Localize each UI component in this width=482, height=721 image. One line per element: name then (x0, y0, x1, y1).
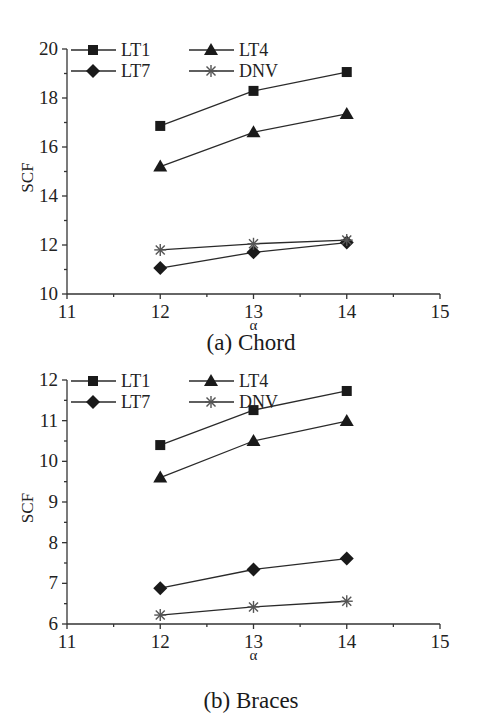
legend-item-lt4: LT4 (189, 40, 268, 60)
triangle-marker-icon (204, 374, 218, 386)
chart-caption-chord: (a) Chord (20, 330, 482, 356)
braces-scf-chart: 67891011121112131415αSCFLT1LT4LT7DNV (0, 360, 482, 690)
legend-item-lt7: LT7 (71, 61, 150, 81)
chord-scf-chart: 1012141618201112131415αSCFLT1LT4LT7DNV (0, 0, 482, 330)
legend-label: DNV (239, 61, 278, 81)
asterisk-marker-icon (341, 234, 353, 246)
square-marker-icon (249, 86, 259, 96)
y-tick-label: 16 (39, 136, 58, 157)
diamond-marker-icon (86, 64, 100, 78)
chart-panel-chord: 1012141618201112131415αSCFLT1LT4LT7DNV (… (0, 0, 482, 360)
chart-caption-braces: (b) Braces (20, 688, 482, 714)
diamond-marker-icon (340, 552, 354, 566)
legend-item-dnv: DNV (189, 392, 278, 412)
y-tick-label: 10 (39, 283, 58, 304)
y-tick-label: 11 (40, 410, 58, 431)
legend-label: DNV (239, 392, 278, 412)
legend: LT1LT4LT7DNV (71, 371, 278, 412)
axes (62, 380, 440, 629)
legend-item-lt1: LT1 (71, 40, 150, 60)
square-marker-icon (342, 67, 352, 77)
x-tick-label: 14 (337, 631, 357, 652)
triangle-marker-icon (153, 471, 167, 483)
asterisk-marker-icon (341, 595, 353, 607)
diamond-marker-icon (247, 563, 261, 577)
legend: LT1LT4LT7DNV (71, 40, 278, 81)
triangle-marker-icon (340, 107, 354, 119)
x-tick-label: 15 (431, 631, 450, 652)
series-lt4 (153, 414, 354, 483)
y-tick-label: 7 (49, 572, 59, 593)
legend-item-lt1: LT1 (71, 371, 150, 391)
legend-label: LT4 (239, 40, 268, 60)
y-tick-label: 18 (39, 87, 58, 108)
diamond-marker-icon (86, 395, 100, 409)
legend-label: LT1 (121, 40, 150, 60)
diamond-marker-icon (153, 581, 167, 595)
triangle-marker-icon (153, 160, 167, 172)
legend-item-lt7: LT7 (71, 392, 150, 412)
square-marker-icon (155, 440, 165, 450)
legend-label: LT7 (121, 392, 150, 412)
asterisk-marker-icon (205, 65, 217, 77)
x-tick-label: 12 (151, 301, 170, 322)
asterisk-marker-icon (248, 601, 260, 613)
y-axis-label: SCF (18, 162, 37, 192)
x-tick-label: 14 (337, 301, 357, 322)
asterisk-marker-icon (154, 244, 166, 256)
square-marker-icon (88, 376, 98, 386)
series-lt7 (153, 552, 354, 596)
y-tick-label: 6 (49, 613, 59, 634)
triangle-marker-icon (204, 43, 218, 55)
chart-panel-braces: 67891011121112131415αSCFLT1LT4LT7DNV (b)… (0, 360, 482, 721)
x-tick-label: 15 (431, 301, 450, 322)
x-tick-label: 12 (151, 631, 170, 652)
y-tick-label: 14 (39, 185, 59, 206)
legend-label: LT1 (121, 371, 150, 391)
y-tick-label: 12 (39, 369, 58, 390)
x-axis-label: α (250, 647, 258, 663)
x-tick-label: 11 (58, 301, 76, 322)
legend-item-lt4: LT4 (189, 371, 268, 391)
series-dnv (154, 595, 353, 621)
asterisk-marker-icon (205, 396, 217, 408)
y-tick-label: 9 (49, 491, 59, 512)
legend-label: LT7 (121, 61, 150, 81)
series-line (160, 421, 347, 478)
legend-label: LT4 (239, 371, 268, 391)
legend-item-dnv: DNV (189, 61, 278, 81)
triangle-marker-icon (340, 414, 354, 426)
square-marker-icon (342, 386, 352, 396)
y-tick-label: 12 (39, 234, 58, 255)
series-line (160, 114, 347, 167)
y-tick-label: 20 (39, 38, 58, 59)
square-marker-icon (88, 45, 98, 55)
diamond-marker-icon (153, 261, 167, 275)
asterisk-marker-icon (154, 609, 166, 621)
y-tick-label: 8 (49, 532, 59, 553)
y-axis-label: SCF (18, 493, 37, 523)
asterisk-marker-icon (248, 238, 260, 250)
y-tick-label: 10 (39, 450, 58, 471)
square-marker-icon (155, 121, 165, 131)
x-tick-label: 11 (58, 631, 76, 652)
